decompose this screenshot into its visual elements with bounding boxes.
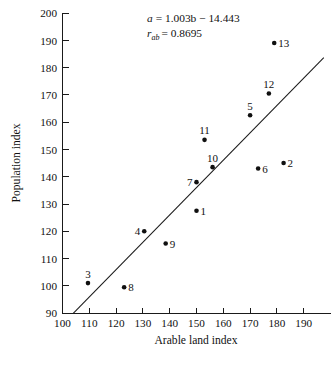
data-point bbox=[210, 165, 215, 170]
x-tick-label: 130 bbox=[135, 317, 152, 329]
annotation-block: a= 1.003b − 14.443 rab= 0.8695 bbox=[147, 12, 240, 42]
scatter-plot-canvas: 200 190 180 170 160 150 140 130 120 110 … bbox=[0, 0, 335, 368]
x-tick-label: 120 bbox=[108, 317, 125, 329]
data-point bbox=[122, 285, 127, 290]
correlation-rhs: = 0.8695 bbox=[161, 27, 202, 39]
data-point-label: 11 bbox=[199, 124, 210, 136]
y-axis-title: Population index bbox=[10, 123, 23, 202]
x-tick-label: 140 bbox=[161, 317, 178, 329]
data-point bbox=[281, 161, 286, 166]
data-point-label: 5 bbox=[247, 100, 253, 112]
data-points-group: 12345678910111213 bbox=[85, 37, 293, 293]
data-point-label: 8 bbox=[128, 281, 134, 293]
x-tick-label: 160 bbox=[215, 317, 232, 329]
x-tick-label: 190 bbox=[295, 317, 312, 329]
x-axis-title: Arable land index bbox=[154, 334, 237, 347]
y-tick-label: 160 bbox=[40, 116, 57, 128]
correlation-subscript: ab bbox=[151, 33, 159, 42]
y-tick-label: 100 bbox=[40, 280, 57, 292]
data-point bbox=[163, 241, 168, 246]
y-axis-ticks bbox=[63, 13, 69, 313]
y-tick-label: 150 bbox=[40, 144, 57, 156]
data-point-label: 4 bbox=[135, 225, 141, 237]
y-tick-label: 140 bbox=[40, 171, 57, 183]
y-tick-label: 180 bbox=[40, 62, 57, 74]
data-point-label: 2 bbox=[288, 157, 294, 169]
data-point bbox=[86, 281, 91, 286]
data-point-label: 7 bbox=[187, 176, 193, 188]
x-tick-label: 150 bbox=[188, 317, 205, 329]
y-tick-label: 200 bbox=[40, 7, 57, 19]
data-point-label: 12 bbox=[263, 78, 274, 90]
equation-lhs: a bbox=[147, 12, 153, 24]
data-point bbox=[272, 41, 277, 46]
x-axis-tick-labels: 100 110 120 130 140 150 160 170 180 190 bbox=[54, 317, 312, 329]
data-point-label: 10 bbox=[207, 152, 219, 164]
x-tick-label: 100 bbox=[54, 317, 71, 329]
regression-equation: a= 1.003b − 14.443 bbox=[147, 12, 240, 24]
data-point bbox=[194, 208, 199, 213]
y-axis-tick-labels: 200 190 180 170 160 150 140 130 120 110 … bbox=[40, 7, 57, 319]
regression-line bbox=[73, 58, 324, 314]
data-point-label: 1 bbox=[201, 205, 207, 217]
x-tick-label: 180 bbox=[269, 317, 286, 329]
equation-rhs: = 1.003b − 14.443 bbox=[156, 12, 240, 24]
data-point-label: 6 bbox=[262, 163, 268, 175]
y-tick-label: 170 bbox=[40, 89, 57, 101]
data-point bbox=[194, 180, 199, 185]
x-tick-label: 170 bbox=[242, 317, 259, 329]
y-tick-label: 120 bbox=[40, 225, 57, 237]
y-tick-label: 130 bbox=[40, 198, 57, 210]
data-point bbox=[256, 166, 261, 171]
data-point bbox=[142, 229, 147, 234]
data-point bbox=[248, 113, 253, 118]
data-point-label: 13 bbox=[278, 37, 290, 49]
y-tick-label: 110 bbox=[41, 253, 58, 265]
correlation-coefficient: rab= 0.8695 bbox=[147, 27, 202, 42]
data-point bbox=[202, 138, 207, 143]
x-tick-label: 110 bbox=[81, 317, 98, 329]
chart-figure: 200 190 180 170 160 150 140 130 120 110 … bbox=[0, 0, 335, 368]
y-tick-label: 190 bbox=[40, 35, 57, 47]
data-point-label: 3 bbox=[85, 268, 91, 280]
data-point-label: 9 bbox=[170, 238, 176, 250]
data-point bbox=[267, 91, 272, 96]
x-axis-ticks bbox=[63, 308, 304, 314]
